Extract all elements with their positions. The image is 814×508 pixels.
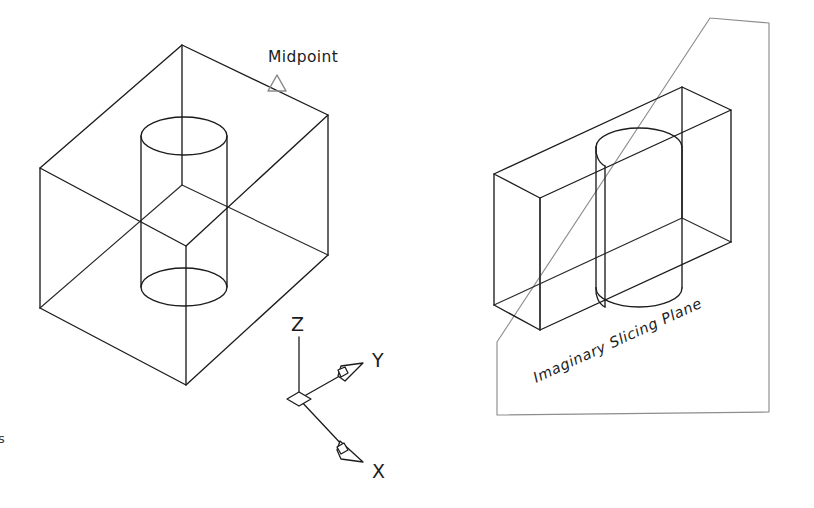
axis-line-y [299,373,345,399]
axis-label-x: X [372,460,385,482]
axis-label-z: Z [291,313,304,335]
drawing-canvas: Midpoint Z Y X s [0,0,814,508]
clipped-edge-text-fragment: s [0,431,5,446]
midpoint-osnap-triangle-icon [268,75,286,91]
axis-line-x [299,399,345,448]
left-block-through-hole [141,117,227,306]
left-block-back-bottom-edges [40,185,328,308]
hole-top-ellipse [141,117,227,155]
right-figure-sliced-block: Imaginary Slicing Plane [494,18,769,415]
axis-triad-indicator: Z Y X [287,313,385,482]
slicing-plane-face [497,18,769,415]
half-hole-top-return-arc [596,147,605,166]
isometric-technical-drawing: Midpoint Z Y X s [0,0,814,508]
axis-label-y: Y [371,349,384,371]
midpoint-label: Midpoint [268,48,338,66]
left-block-bottom-face-edges [40,255,328,385]
left-block-top-face-edges [40,45,328,246]
hole-bottom-ellipse [141,268,227,306]
